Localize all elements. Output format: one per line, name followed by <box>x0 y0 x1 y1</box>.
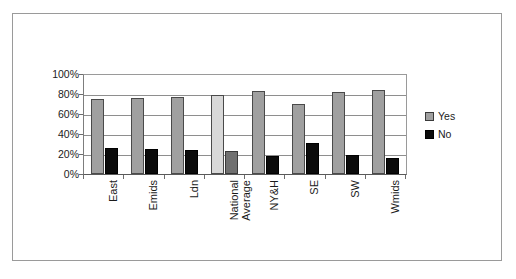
bar-yes <box>292 104 305 174</box>
x-axis-category-label: SE <box>308 180 320 260</box>
x-axis-category-label-line: Wmids <box>389 180 401 214</box>
x-axis-category-label-line: SW <box>349 180 361 198</box>
x-axis-category-label: East <box>107 180 119 260</box>
x-axis-category-label: NY&H <box>268 180 280 260</box>
x-axis-category-label: Ldn <box>188 180 200 260</box>
bar-group <box>245 74 285 174</box>
y-axis-tick-label: 0% <box>31 169 79 179</box>
x-axis-category-label-line: National <box>228 180 240 220</box>
x-axis-category-label-line: Ldn <box>188 180 200 198</box>
x-axis-category-label-line: NY&H <box>268 180 280 211</box>
y-axis-tick-label: 20% <box>31 149 79 159</box>
bar-no <box>346 155 359 174</box>
x-axis-tick-mark <box>365 175 366 179</box>
x-axis-tick-mark <box>284 175 285 179</box>
y-axis-tick-label: 80% <box>31 89 79 99</box>
bar-no <box>306 143 319 174</box>
x-axis-tick-mark <box>405 175 406 179</box>
x-axis-category-label: NationalAverage <box>228 180 252 260</box>
bar-group <box>285 74 325 174</box>
y-axis-tick-label: 100% <box>31 69 79 79</box>
x-axis-category-label: SW <box>349 180 361 260</box>
bar-yes <box>252 91 265 174</box>
bar-no <box>386 158 399 174</box>
bar-no <box>225 151 238 174</box>
x-axis-category-label-line: East <box>107 180 119 202</box>
bar-group <box>84 74 124 174</box>
x-axis-tick-mark <box>123 175 124 179</box>
bar-no <box>105 148 118 174</box>
bar-yes <box>131 98 144 174</box>
bar-yes <box>372 90 385 174</box>
x-axis-category-label-line: SE <box>308 180 320 195</box>
bar-yes <box>171 97 184 174</box>
x-axis-category-label: Wmids <box>389 180 401 260</box>
y-axis-tick-label: 60% <box>31 109 79 119</box>
bar-yes <box>91 99 104 174</box>
legend-item-yes[interactable]: Yes <box>425 109 489 124</box>
legend-label: Yes <box>438 111 455 122</box>
x-axis-labels: EastEmidsLdnNationalAverageNY&HSESWWmids <box>83 180 407 260</box>
bar-group <box>124 74 164 174</box>
x-axis-tick-mark <box>83 175 84 179</box>
bar-group <box>205 74 245 174</box>
legend-label: No <box>438 129 451 140</box>
bar-yes <box>332 92 345 174</box>
legend-swatch-no-icon <box>425 130 434 139</box>
legend-item-no[interactable]: No <box>425 127 489 142</box>
x-axis-tick-mark <box>244 175 245 179</box>
bar-yes <box>211 95 224 174</box>
bar-group <box>165 74 205 174</box>
legend-swatch-yes-icon <box>425 112 434 121</box>
x-axis-category-label-line: Emids <box>147 180 159 211</box>
y-axis-tick-label: 40% <box>31 129 79 139</box>
bar-group <box>366 74 406 174</box>
x-axis-category-label-line: Average <box>240 180 252 260</box>
bar-no <box>145 149 158 174</box>
x-axis-tick-mark <box>325 175 326 179</box>
y-axis-labels: 0%20%40%60%80%100% <box>27 74 79 175</box>
chart-frame: 0%20%40%60%80%100% EastEmidsLdnNationalA… <box>12 13 502 261</box>
bar-group <box>326 74 366 174</box>
bars-layer <box>84 74 406 174</box>
chart-legend: YesNo <box>425 109 489 145</box>
bar-no <box>185 150 198 174</box>
x-axis-tick-mark <box>204 175 205 179</box>
x-axis-tick-mark <box>164 175 165 179</box>
x-axis-category-label: Emids <box>147 180 159 260</box>
bar-no <box>266 156 279 174</box>
